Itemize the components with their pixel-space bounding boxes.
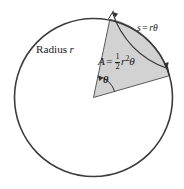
sector-area-formula: A=12r2θ: [98, 53, 135, 72]
radius-label-variable: r: [67, 43, 74, 55]
area-formula-lhs: A: [98, 55, 105, 67]
area-formula-fraction: 12: [115, 53, 120, 72]
area-formula-equals: =: [105, 55, 114, 67]
area-formula-fraction-denominator: 2: [115, 63, 120, 72]
radius-label: Radiusr: [36, 44, 74, 55]
central-angle-label: θ: [103, 75, 108, 86]
area-formula-angle-symbol: θ: [129, 55, 135, 67]
circle-sector-figure: Radiusr A=12r2θ s=rθ θ: [0, 0, 184, 189]
arc-formula-equals: =: [141, 22, 149, 33]
arc-length-formula: s=rθ: [137, 23, 158, 33]
radius-label-word: Radius: [36, 43, 67, 55]
arc-formula-rhs: rθ: [149, 22, 157, 33]
